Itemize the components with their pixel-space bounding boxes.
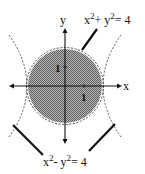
x-axis-right-arrow-icon (117, 84, 122, 89)
x-tick-label: 1 (81, 91, 87, 103)
hyperbola-left-label-pointer (13, 125, 43, 155)
hyperbola-right-label-pointer (89, 124, 115, 151)
y-axis-label: y (60, 13, 66, 27)
circle-equation-label: x2+ y2= 4 (84, 11, 131, 27)
graph-figure: x y 1 1 x2+ y2= 4 x2- y2= 4 (0, 0, 145, 174)
x-axis-label: x (123, 79, 129, 93)
y-tick-label: 1 (55, 62, 61, 74)
y-axis-bottom-arrow-icon (63, 139, 68, 144)
hyperbola-equation-label: x2- y2= 4 (43, 153, 87, 169)
circle-label-pointer (82, 29, 97, 50)
y-axis-top-arrow-icon (63, 28, 68, 33)
x-axis-left-arrow-icon (9, 84, 14, 89)
